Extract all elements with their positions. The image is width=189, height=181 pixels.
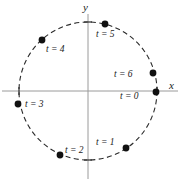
data-label-t2: t = 2 xyxy=(65,145,84,155)
data-label-group: t = 0 t = 1 t = 2 t = 3 t = 4 t = 5 t = … xyxy=(25,29,139,155)
x-axis-label: x xyxy=(168,79,174,91)
data-label-t0: t = 0 xyxy=(120,91,139,101)
data-point-t0 xyxy=(153,89,160,96)
data-point-t3 xyxy=(15,101,22,108)
parametric-circle-figure: y x t = 0 t = 1 t = 2 t = 3 t = 4 t = 5 … xyxy=(0,0,189,181)
data-label-t6: t = 6 xyxy=(114,69,133,79)
data-point-t1 xyxy=(123,145,130,152)
y-axis-label: y xyxy=(82,1,88,13)
data-label-t3: t = 3 xyxy=(25,99,44,109)
plot-canvas: y x t = 0 t = 1 t = 2 t = 3 t = 4 t = 5 … xyxy=(0,0,189,181)
data-point-t4 xyxy=(39,37,46,44)
data-point-t2 xyxy=(57,152,64,159)
data-label-t1: t = 1 xyxy=(96,137,115,147)
data-point-group xyxy=(15,21,160,159)
data-label-t4: t = 4 xyxy=(46,44,65,54)
axes-group xyxy=(2,14,178,179)
data-point-t5 xyxy=(102,21,109,28)
data-point-t6 xyxy=(150,70,157,77)
data-label-t5: t = 5 xyxy=(96,29,115,39)
